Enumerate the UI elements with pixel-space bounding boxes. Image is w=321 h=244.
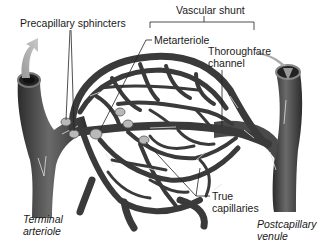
sphincter-icon [123, 120, 133, 128]
label-true-capillaries-line1: True [212, 190, 259, 202]
label-thoroughfare-line2: channel [208, 57, 271, 69]
label-thoroughfare-channel: Thoroughfare channel [208, 45, 271, 69]
label-terminal-arteriole-line1: Terminal [23, 213, 63, 225]
inflow-arrow-icon [21, 38, 38, 78]
label-postcapillary-venule-line1: Postcapillary [257, 218, 317, 230]
label-true-capillaries-line2: capillaries [212, 202, 259, 214]
label-postcapillary-venule-line2: venule [257, 230, 317, 242]
label-vascular-shunt: Vascular shunt [176, 4, 245, 16]
label-metarteriole: Metarteriole [154, 34, 209, 46]
label-precapillary-sphincters: Precapillary sphincters [20, 17, 126, 29]
sphincter-icon [90, 129, 102, 139]
sphincter-icon [69, 130, 79, 138]
label-terminal-arteriole-line2: arteriole [23, 225, 63, 237]
label-thoroughfare-line1: Thoroughfare [208, 45, 271, 57]
label-postcapillary-venule: Postcapillary venule [257, 218, 317, 242]
sphincter-icon [115, 108, 125, 116]
label-true-capillaries: True capillaries [212, 190, 259, 214]
sphincter-icon [139, 136, 149, 144]
label-terminal-arteriole: Terminal arteriole [23, 213, 63, 237]
